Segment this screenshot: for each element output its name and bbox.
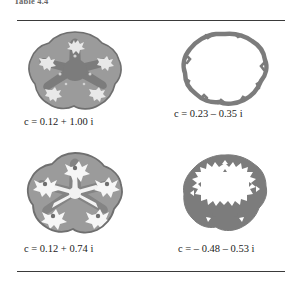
julia-caption-top-right: c = 0.23 – 0.35 i — [150, 108, 299, 119]
figure-bottom-rule — [17, 271, 285, 272]
figure-cell-julia-bottom-right: c = – 0.48 – 0.53 i — [150, 147, 299, 270]
julia-set-image-bottom-right — [150, 147, 299, 239]
julia-caption-bottom-right: c = – 0.48 – 0.53 i — [150, 243, 299, 254]
figure-cell-julia-bottom-left: c = 0.12 + 0.74 i — [0, 147, 149, 270]
figure-cell-julia-top-right: c = 0.23 – 0.35 i — [150, 24, 299, 147]
figure-cell-julia-top-left: c = 0.12 + 1.00 i — [0, 24, 149, 147]
julia-set-image-bottom-left — [0, 147, 149, 239]
julia-set-figure-grid: c = 0.12 + 1.00 i c = 0.23 — [0, 24, 299, 270]
julia-caption-top-left: c = 0.12 + 1.00 i — [0, 116, 173, 127]
julia-set-image-top-right — [150, 24, 299, 116]
julia-caption-bottom-left: c = 0.12 + 0.74 i — [0, 243, 173, 254]
julia-set-image-top-left — [0, 24, 149, 116]
figure-header-label: Table 4.4 — [14, 0, 49, 6]
figure-top-rule — [17, 20, 285, 21]
